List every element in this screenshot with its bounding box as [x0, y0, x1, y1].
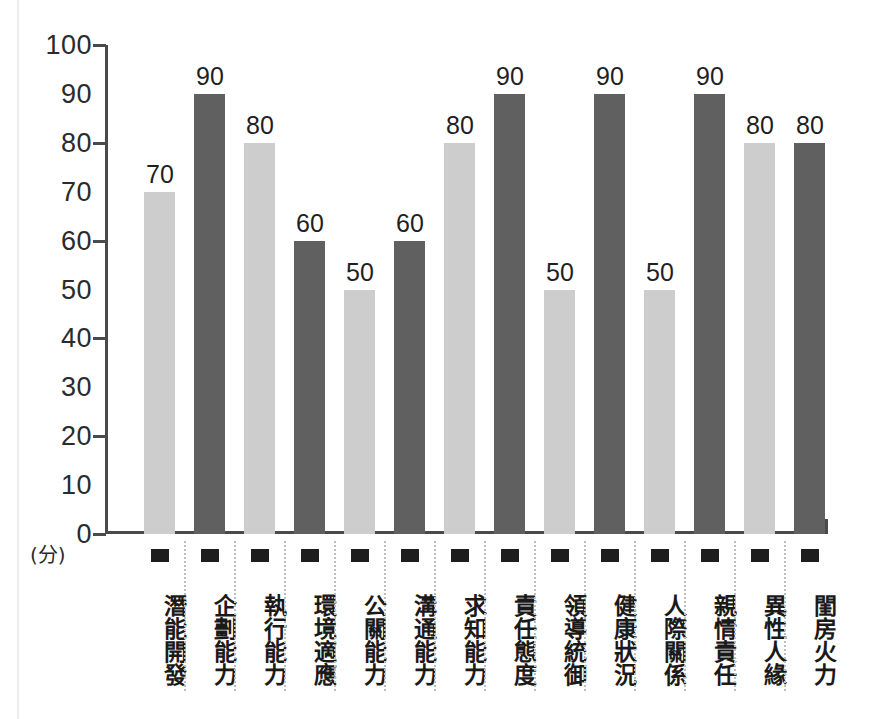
bar-value-label: 50	[329, 260, 391, 285]
y-axis-tick-label-text: 10	[6, 472, 92, 499]
bar[interactable]	[794, 143, 825, 534]
category-label-text: 環境適應	[285, 570, 335, 710]
category-marker-icon	[301, 549, 319, 562]
y-axis-tick-label-text: 50	[6, 277, 92, 304]
y-axis-tick-label: 20	[0, 423, 92, 450]
y-axis-tick-label: 80	[0, 130, 92, 157]
category-column[interactable]: 求知能力	[435, 536, 485, 711]
category-label-text: 異性人緣	[735, 570, 785, 710]
category-marker-icon	[701, 549, 719, 562]
bar[interactable]	[744, 143, 775, 534]
category-label-text: 領導統御	[535, 570, 585, 710]
y-axis-tick-label: 90	[0, 81, 92, 108]
bar[interactable]	[644, 290, 675, 535]
category-label-text: 求知能力	[435, 570, 485, 710]
category-column[interactable]: 執行能力	[235, 536, 285, 711]
y-axis-tick-label-text: 100	[6, 32, 92, 59]
bar[interactable]	[544, 290, 575, 535]
bar-value-label: 50	[529, 260, 591, 285]
category-column[interactable]: 環境適應	[285, 536, 335, 711]
category-column[interactable]: 人際關係	[635, 536, 685, 711]
category-column[interactable]: 企劃能力	[185, 536, 235, 711]
category-column[interactable]: 公關能力	[335, 536, 385, 711]
bar-value-label: 70	[129, 162, 191, 187]
bar-value-label: 80	[429, 113, 491, 138]
bar-value-label: 90	[579, 64, 641, 89]
category-marker-icon	[151, 549, 169, 562]
y-axis-tick-label-text: 90	[6, 81, 92, 108]
bar-value-label: 60	[379, 211, 441, 236]
category-marker-icon	[751, 549, 769, 562]
category-label-text: 親情責任	[685, 570, 735, 710]
category-marker-icon	[201, 549, 219, 562]
category-marker-icon	[651, 549, 669, 562]
y-axis-tick-label: 70	[0, 179, 92, 206]
category-label-text: 溝通能力	[385, 570, 435, 710]
y-axis-tick-label: 10	[0, 472, 92, 499]
bar-slot: 90	[685, 45, 735, 534]
category-marker-icon	[501, 549, 519, 562]
category-column[interactable]: 異性人緣	[735, 536, 785, 711]
y-axis-tick-label: 60	[0, 228, 92, 255]
category-column[interactable]: 潛能開發	[135, 536, 185, 711]
y-axis-tick-label-text: 30	[6, 374, 92, 401]
y-axis-unit-label: (分)	[30, 545, 66, 565]
bar-slot: 90	[485, 45, 535, 534]
category-column[interactable]: 閨房火力	[785, 536, 835, 711]
bar-value-label: 60	[279, 211, 341, 236]
bar-slot: 90	[585, 45, 635, 534]
category-label-text: 公關能力	[335, 570, 385, 710]
bar-slot: 80	[785, 45, 835, 534]
category-marker-icon	[451, 549, 469, 562]
category-column[interactable]: 親情責任	[685, 536, 735, 711]
bar[interactable]	[144, 192, 175, 534]
category-label-text: 執行能力	[235, 570, 285, 710]
category-column[interactable]: 健康狀況	[585, 536, 635, 711]
bar-slot: 60	[385, 45, 435, 534]
category-column[interactable]: 領導統御	[535, 536, 585, 711]
bar[interactable]	[294, 241, 325, 534]
bar-slot: 50	[335, 45, 385, 534]
category-marker-icon	[401, 549, 419, 562]
bar[interactable]	[194, 94, 225, 534]
bar-slot: 80	[235, 45, 285, 534]
bar-value-label: 80	[229, 113, 291, 138]
y-axis-tick-label-text: 70	[6, 179, 92, 206]
y-axis-tick-label: 40	[0, 325, 92, 352]
category-label-text: 企劃能力	[185, 570, 235, 710]
bar[interactable]	[344, 290, 375, 535]
bar-slot: 80	[435, 45, 485, 534]
bar[interactable]	[694, 94, 725, 534]
bar-slot: 50	[535, 45, 585, 534]
bar-slot: 90	[185, 45, 235, 534]
category-label-band: 潛能開發企劃能力執行能力環境適應公關能力溝通能力求知能力責任態度領導統御健康狀況…	[105, 536, 828, 711]
y-axis-tick-label: 50	[0, 277, 92, 304]
category-marker-icon	[801, 549, 819, 562]
bar[interactable]	[594, 94, 625, 534]
y-axis-tick-label: 100	[0, 32, 92, 59]
bar-value-label: 90	[179, 64, 241, 89]
category-label-text: 健康狀況	[585, 570, 635, 710]
bar[interactable]	[444, 143, 475, 534]
y-axis-tick-label: 30	[0, 374, 92, 401]
y-axis-tick-label-text: 40	[6, 325, 92, 352]
bar-slot: 80	[735, 45, 785, 534]
plot-area: 7090806050608090509050908080	[105, 45, 828, 534]
category-column[interactable]: 責任態度	[485, 536, 535, 711]
category-label-text: 閨房火力	[785, 570, 835, 710]
bar-slot: 60	[285, 45, 335, 534]
bar-chart: 1009080706050403020100 (分) 7090806050608…	[0, 0, 871, 719]
bar[interactable]	[244, 143, 275, 534]
bar[interactable]	[394, 241, 425, 534]
bar-value-label: 90	[679, 64, 741, 89]
category-label-text: 人際關係	[635, 570, 685, 710]
y-axis-tick-label-text: 60	[6, 228, 92, 255]
bar-slot: 50	[635, 45, 685, 534]
category-marker-icon	[251, 549, 269, 562]
category-marker-icon	[351, 549, 369, 562]
bar[interactable]	[494, 94, 525, 534]
bar-slot: 70	[135, 45, 185, 534]
category-marker-icon	[601, 549, 619, 562]
category-label-text: 責任態度	[485, 570, 535, 710]
category-column[interactable]: 溝通能力	[385, 536, 435, 711]
